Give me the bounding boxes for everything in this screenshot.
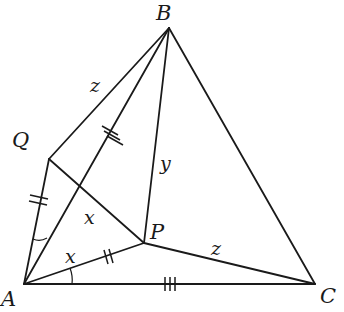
segment-BC: [169, 28, 315, 284]
segment-AP: [24, 243, 144, 284]
label-P: P: [149, 220, 165, 244]
tick-marks-AQ: [29, 195, 48, 205]
segment-QP: [49, 159, 144, 243]
angle-arc-QAB: [33, 238, 47, 240]
angle-arc-PAC: [70, 268, 72, 284]
label-x-lower: x: [65, 245, 76, 267]
label-Q: Q: [12, 128, 29, 152]
segment-AQ: [24, 159, 49, 284]
tick-marks-AP: [104, 249, 113, 264]
segment-QB: [49, 28, 169, 159]
label-B: B: [155, 1, 171, 25]
label-C: C: [320, 284, 336, 308]
label-z-QB: z: [89, 74, 101, 96]
geometry-diagram: B Q A C P z y z x x: [0, 0, 344, 312]
label-y-BP: y: [159, 152, 171, 174]
diagram-svg: B Q A C P z y z x x: [0, 0, 344, 312]
label-z-PC: z: [210, 237, 222, 259]
segment-AB: [24, 28, 169, 284]
label-A: A: [0, 287, 16, 311]
segment-BP: [144, 28, 169, 243]
label-x-upper: x: [84, 206, 95, 228]
